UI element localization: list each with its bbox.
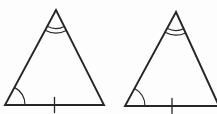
diagram-svg <box>0 0 217 114</box>
apex-angle-arc-2 <box>45 30 66 33</box>
apex-angle-arc-1 <box>47 26 64 28</box>
apex-angle-arc-1 <box>167 28 184 30</box>
right-triangle <box>125 12 217 114</box>
geometry-diagram <box>0 0 217 114</box>
apex-angle-arc-2 <box>165 32 186 35</box>
left-triangle <box>5 10 104 113</box>
base-angle-arc <box>135 88 145 106</box>
base-angle-arc <box>14 87 25 105</box>
